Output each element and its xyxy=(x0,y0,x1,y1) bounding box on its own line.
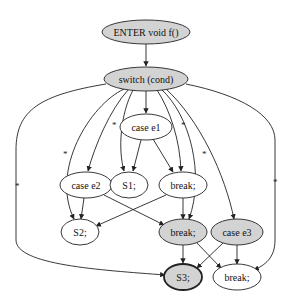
node-break1[interactable]: break; xyxy=(159,172,207,198)
edge-mark: * xyxy=(15,181,20,191)
node-switch[interactable]: switch (cond) xyxy=(104,67,188,91)
node-label: ENTER void f() xyxy=(114,27,179,39)
node-break2[interactable]: break; xyxy=(159,219,207,245)
node-label: break; xyxy=(171,180,196,191)
node-label: S1; xyxy=(122,180,136,191)
edge-mark: * xyxy=(273,177,278,187)
edge-break1-s2 xyxy=(96,195,166,226)
edge-case-e3-s3 xyxy=(197,242,224,268)
node-label: case e1 xyxy=(131,122,160,133)
node-s2[interactable]: S2; xyxy=(61,219,99,245)
node-label: S2; xyxy=(73,227,87,238)
control-flow-graph: * * * * * * ENTER void f() switch (cond)… xyxy=(0,0,292,308)
edge-break2-break3 xyxy=(196,242,221,268)
node-case-e3[interactable]: case e3 xyxy=(211,219,263,245)
edge-mark: * xyxy=(63,149,68,159)
edge-switch-case-e3 xyxy=(165,88,234,219)
node-label: case e2 xyxy=(71,180,100,191)
nodes: ENTER void f() switch (cond) case e1 cas… xyxy=(60,20,263,290)
node-label: case e3 xyxy=(222,227,251,238)
node-s1[interactable]: S1; xyxy=(110,172,148,198)
edge-case-e1-break1 xyxy=(153,139,173,172)
node-case-e1[interactable]: case e1 xyxy=(120,114,172,140)
node-break3[interactable]: break; xyxy=(213,264,261,290)
edge-switch-break2 xyxy=(161,89,196,219)
edge-case-e2-s2 xyxy=(81,198,84,219)
node-enter[interactable]: ENTER void f() xyxy=(102,20,190,44)
node-label: break; xyxy=(171,227,196,238)
edge-mark: * xyxy=(112,120,117,130)
edge-mark: * xyxy=(202,149,207,159)
edge-switch-s2 xyxy=(67,89,124,219)
edge-mark: * xyxy=(181,120,186,130)
edge-case-e1-s1 xyxy=(133,140,141,171)
node-s3[interactable]: S3; xyxy=(164,264,202,290)
node-label: switch (cond) xyxy=(119,74,174,86)
node-label: S3; xyxy=(176,272,190,283)
node-label: break; xyxy=(225,272,250,283)
node-case-e2[interactable]: case e2 xyxy=(60,172,112,198)
